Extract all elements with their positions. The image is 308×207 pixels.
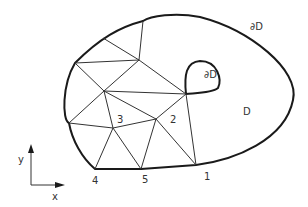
node-label-3: 3 — [117, 114, 123, 125]
coordinate-axes: y x — [18, 144, 65, 202]
axis-y-label: y — [18, 154, 24, 165]
mesh-edges — [69, 21, 196, 169]
domain-label: D — [243, 106, 251, 117]
y-arrow-icon — [28, 144, 34, 153]
node-label-2: 2 — [170, 114, 176, 125]
axis-x-label: x — [52, 191, 58, 202]
outer-boundary-label: ∂D — [250, 21, 263, 32]
x-arrow-icon — [55, 182, 65, 188]
node-label-5: 5 — [142, 174, 148, 185]
node-label-4: 4 — [92, 175, 98, 186]
inner-boundary-label: ∂D — [204, 69, 217, 80]
node-label-1: 1 — [204, 171, 210, 182]
mesh-diagram: ∂D ∂D D 1 2 3 4 5 y x — [0, 0, 308, 207]
